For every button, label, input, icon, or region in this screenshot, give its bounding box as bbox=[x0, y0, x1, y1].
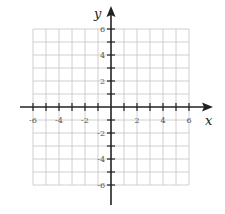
x-tick-label: -2 bbox=[81, 116, 89, 125]
x-tick-label: -6 bbox=[29, 116, 37, 125]
x-axis-label: x bbox=[205, 113, 213, 128]
y-tick-label: -4 bbox=[97, 155, 105, 164]
x-tick-label: 4 bbox=[160, 116, 165, 125]
y-tick-label: -6 bbox=[97, 181, 105, 190]
y-tick-label: 6 bbox=[100, 25, 105, 34]
y-tick-label: 2 bbox=[100, 77, 105, 86]
coordinate-plane: -6 -4 -2 2 4 6 x 6 4 2 -2 -4 -6 y bbox=[0, 0, 225, 214]
y-tick-label: 4 bbox=[100, 51, 105, 60]
x-tick-label: 6 bbox=[186, 116, 191, 125]
y-tick-label: -2 bbox=[97, 129, 105, 138]
y-axis: 6 4 2 -2 -4 -6 y bbox=[93, 6, 116, 205]
x-tick-label: 2 bbox=[134, 116, 139, 125]
y-axis-label: y bbox=[93, 6, 102, 21]
x-axis: -6 -4 -2 2 4 6 x bbox=[20, 103, 213, 129]
x-tick-label: -4 bbox=[55, 116, 63, 125]
